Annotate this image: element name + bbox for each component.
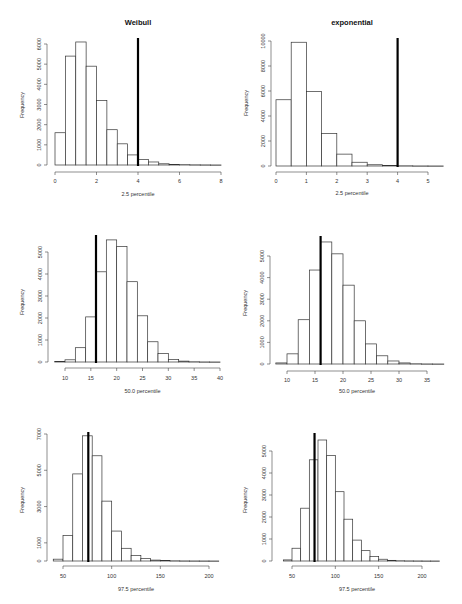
histogram-bar — [75, 348, 85, 362]
y-tick-label: 0 — [36, 163, 42, 166]
y-axis: 0200040006000800010000 — [260, 33, 271, 167]
histogram-bar — [63, 536, 73, 561]
x-axis-label: 2.5 percentile — [121, 191, 154, 197]
histogram-bar — [321, 242, 332, 364]
histogram-bar — [117, 144, 127, 165]
x-tick-label: 150 — [374, 573, 383, 579]
histogram-bar — [337, 154, 352, 166]
histogram-bars — [53, 436, 218, 561]
histogram-bar — [379, 559, 388, 561]
histogram-bars — [283, 440, 439, 561]
y-tick-label: 1000 — [37, 334, 43, 346]
histogram-bar — [65, 360, 75, 362]
histogram-bars — [276, 42, 443, 166]
x-tick-label: 2 — [335, 178, 338, 184]
x-tick-label: 35 — [424, 377, 430, 383]
y-tick-label: 4000 — [260, 110, 266, 122]
histogram-bar — [387, 560, 396, 561]
histogram-bar — [92, 456, 102, 561]
x-axis: 101520253035 — [284, 371, 430, 383]
histogram-bar — [102, 501, 112, 561]
x-tick-label: 10 — [284, 377, 290, 383]
x-axis: 50100150200 — [289, 566, 427, 579]
x-tick-label: 35 — [191, 375, 197, 381]
x-tick-label: 50 — [60, 573, 66, 579]
histogram-bar — [377, 356, 388, 364]
histogram-bar — [292, 548, 301, 561]
y-tick-label: 2000 — [36, 119, 42, 131]
y-tick-label: 2000 — [259, 315, 265, 327]
histogram-bar — [354, 321, 365, 364]
y-tick-label: 5000 — [36, 58, 42, 70]
histogram-exponential-97.5: 5010015020097.5 percentile01000200030004… — [242, 433, 439, 592]
y-axis: 01000300050007000 — [36, 428, 47, 563]
y-tick-label: 2000 — [260, 135, 266, 147]
histogram-bar — [106, 240, 116, 362]
x-tick-label: 150 — [156, 573, 165, 579]
histogram-bar — [97, 100, 107, 165]
histogram-bar — [343, 285, 354, 364]
histogram-bar — [131, 556, 141, 561]
histogram-bar — [318, 440, 327, 561]
histogram-bar — [73, 474, 83, 561]
histogram-bar — [179, 361, 189, 362]
y-tick-label: 6000 — [260, 85, 266, 97]
y-tick-label: 5000 — [37, 246, 43, 258]
y-tick-label: 5000 — [259, 250, 265, 262]
histogram-bar — [298, 320, 309, 364]
y-axis-label: Frequency — [19, 92, 25, 118]
y-tick-label: 8000 — [260, 60, 266, 72]
histogram-bar — [151, 560, 161, 561]
y-axis: 0100020003000400050006000 — [36, 38, 47, 167]
histogram-bar — [322, 134, 337, 167]
x-tick-label: 200 — [204, 573, 213, 579]
x-tick-label: 25 — [368, 377, 374, 383]
y-tick-label: 0 — [260, 164, 266, 167]
histogram-bar — [117, 247, 127, 363]
chart-title: exponential — [331, 18, 373, 27]
y-tick-label: 4000 — [37, 268, 43, 280]
y-tick-label: 4000 — [261, 467, 267, 479]
histogram-bar — [332, 254, 343, 364]
x-axis-label: 50.0 percentile — [124, 388, 160, 394]
y-tick-label: 1000 — [36, 537, 42, 549]
histogram-bar — [148, 342, 158, 362]
histogram-bar — [370, 557, 379, 561]
histogram-bar — [127, 282, 137, 362]
y-tick-label: 3000 — [36, 98, 42, 110]
histogram-bar — [399, 363, 410, 364]
histogram-weibull-50.0: 1015202530354050.0 percentile01000200030… — [19, 235, 223, 394]
x-axis: 50100150200 — [60, 566, 214, 579]
y-tick-label: 0 — [259, 362, 265, 365]
x-tick-label: 25 — [139, 375, 145, 381]
figure-svg: Weibull024682.5 percentile01000200030004… — [0, 0, 462, 604]
y-axis: 010002000300040005000 — [37, 246, 48, 364]
x-axis: 02468 — [53, 172, 222, 184]
histogram-bar — [107, 130, 117, 165]
y-axis-label: Frequency — [242, 487, 248, 513]
histogram-bar — [86, 66, 96, 165]
histogram-bar — [169, 164, 179, 165]
y-tick-label: 5000 — [36, 464, 42, 476]
x-tick-label: 200 — [417, 573, 426, 579]
x-axis-label: 97.5 percentile — [118, 586, 154, 592]
x-axis: 012345 — [274, 172, 429, 184]
histogram-bar — [121, 548, 131, 561]
x-tick-label: 30 — [396, 377, 402, 383]
histogram-bar — [353, 540, 362, 561]
x-axis-label: 97.5 percentile — [339, 586, 375, 592]
y-axis-label: Frequency — [19, 487, 25, 513]
x-tick-label: 5 — [426, 178, 429, 184]
histogram-bar — [382, 166, 397, 167]
y-tick-label: 0 — [37, 360, 43, 363]
y-tick-label: 10000 — [260, 33, 266, 48]
histogram-weibull-2.5: Weibull024682.5 percentile01000200030004… — [19, 18, 223, 197]
x-tick-label: 4 — [136, 178, 139, 184]
y-tick-label: 3000 — [36, 500, 42, 512]
y-tick-label: 7000 — [36, 428, 42, 440]
x-tick-label: 0 — [53, 178, 56, 184]
x-tick-label: 30 — [165, 375, 171, 381]
y-tick-label: 5000 — [261, 445, 267, 457]
histogram-exponential-2.5: exponential0123452.5 percentile020004000… — [243, 18, 443, 196]
x-tick-label: 100 — [331, 573, 340, 579]
